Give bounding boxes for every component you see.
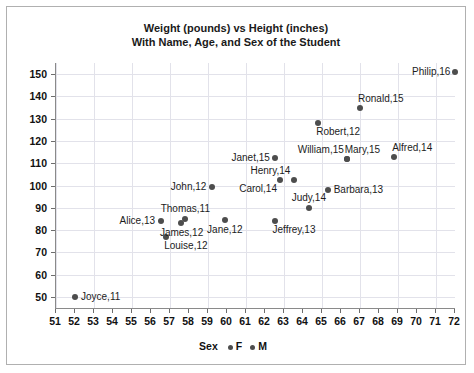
scatter-point-label: Barbara,13 — [334, 185, 383, 195]
chart-title: Weight (pounds) vs Height (inches) With … — [7, 21, 465, 49]
x-axis-tick-mark — [454, 309, 455, 313]
x-axis-tick-mark — [112, 309, 113, 313]
scatter-point-label: William,15 — [298, 145, 344, 155]
y-axis-tick-label: 120 — [17, 136, 47, 146]
scatter-point-label: Alfred,14 — [392, 143, 432, 153]
x-axis-tick-mark — [283, 309, 284, 313]
scatter-point[interactable] — [209, 184, 215, 190]
scatter-point-label: Carol,14 — [239, 184, 277, 194]
y-axis-tick-mark — [51, 186, 55, 187]
scatter-point-label: James,12 — [160, 228, 203, 238]
gridline-horizontal — [56, 275, 455, 276]
y-axis-tick-label: 100 — [17, 181, 47, 191]
chart-container: Weight (pounds) vs Height (inches) With … — [6, 6, 466, 365]
chart-legend: SexFM — [7, 340, 467, 352]
y-axis-tick-mark — [51, 163, 55, 164]
scatter-point[interactable] — [357, 105, 363, 111]
gridline-horizontal — [56, 230, 455, 231]
x-axis-tick-mark — [226, 309, 227, 313]
legend-item-label: M — [258, 340, 267, 352]
gridline-horizontal — [56, 208, 455, 209]
scatter-point[interactable] — [291, 177, 297, 183]
scatter-point-label: Mary,15 — [345, 145, 380, 155]
y-axis-tick-label: 80 — [17, 225, 47, 235]
scatter-point-label: Jane,12 — [207, 225, 243, 235]
legend-title: Sex — [199, 340, 218, 352]
y-axis-tick-mark — [51, 297, 55, 298]
gridline-horizontal — [56, 74, 455, 75]
gridline-horizontal — [56, 119, 455, 120]
y-axis-tick-label: 60 — [17, 270, 47, 280]
scatter-point-label: Alice,13 — [120, 216, 156, 226]
scatter-point[interactable] — [391, 154, 397, 160]
scatter-point[interactable] — [344, 156, 350, 162]
y-axis-tick-label: 70 — [17, 247, 47, 257]
x-axis-tick-label: 72 — [443, 316, 465, 326]
scatter-point-label: Louise,12 — [164, 241, 207, 251]
scatter-point-label: John,12 — [171, 182, 207, 192]
x-axis-tick-mark — [169, 309, 170, 313]
legend-item[interactable]: M — [250, 340, 267, 352]
y-axis-tick-mark — [51, 96, 55, 97]
y-axis-tick-label: 150 — [17, 69, 47, 79]
plot-area: Joyce,11Alice,13Louise,12James,12Thomas,… — [55, 63, 455, 309]
scatter-point-label: Thomas,11 — [161, 204, 210, 214]
chart-title-line-1: Weight (pounds) vs Height (inches) — [144, 22, 328, 34]
y-axis-tick-label: 110 — [17, 158, 47, 168]
x-axis-tick-mark — [93, 309, 94, 313]
scatter-point-label: Robert,12 — [316, 127, 360, 137]
y-axis-tick-mark — [51, 252, 55, 253]
y-axis-tick-label: 50 — [17, 292, 47, 302]
x-axis-tick-mark — [416, 309, 417, 313]
x-axis-tick-mark — [245, 309, 246, 313]
x-axis-tick-mark — [302, 309, 303, 313]
x-axis-tick-mark — [397, 309, 398, 313]
legend-marker-icon — [250, 345, 255, 350]
y-axis-tick-label: 90 — [17, 203, 47, 213]
scatter-point-label: Judy,14 — [292, 193, 326, 203]
y-axis-tick-label: 140 — [17, 91, 47, 101]
scatter-point[interactable] — [306, 205, 312, 211]
legend-item-label: F — [236, 340, 242, 352]
x-axis-tick-mark — [74, 309, 75, 313]
scatter-point-label: Henry,14 — [251, 166, 291, 176]
scatter-point-label: Ronald,15 — [358, 94, 404, 104]
scatter-point[interactable] — [452, 69, 458, 75]
x-axis-tick-mark — [55, 309, 56, 313]
x-axis-tick-mark — [321, 309, 322, 313]
scatter-point-label: Joyce,11 — [81, 292, 120, 302]
legend-item[interactable]: F — [228, 340, 242, 352]
x-axis-tick-mark — [131, 309, 132, 313]
x-axis-tick-mark — [207, 309, 208, 313]
scatter-point-label: Janet,15 — [232, 153, 270, 163]
y-axis-tick-mark — [51, 74, 55, 75]
x-axis-tick-mark — [264, 309, 265, 313]
scatter-point[interactable] — [72, 294, 78, 300]
y-axis-tick-mark — [51, 119, 55, 120]
scatter-point[interactable] — [158, 218, 164, 224]
x-axis-tick-mark — [435, 309, 436, 313]
x-axis-tick-mark — [359, 309, 360, 313]
scatter-point-label: Jeffrey,13 — [273, 225, 316, 235]
x-axis-tick-mark — [340, 309, 341, 313]
gridline-horizontal — [56, 252, 455, 253]
y-axis-tick-mark — [51, 208, 55, 209]
scatter-point[interactable] — [272, 155, 278, 161]
x-axis-tick-mark — [150, 309, 151, 313]
scatter-point-label: Philip,16 — [412, 67, 450, 77]
scatter-point[interactable] — [325, 187, 331, 193]
y-axis-tick-mark — [51, 141, 55, 142]
legend-marker-icon — [228, 345, 233, 350]
x-axis-tick-mark — [378, 309, 379, 313]
y-axis-tick-mark — [51, 275, 55, 276]
y-axis-tick-mark — [51, 230, 55, 231]
chart-title-line-2: With Name, Age, and Sex of the Student — [7, 35, 465, 49]
y-axis-tick-label: 130 — [17, 114, 47, 124]
x-axis-tick-mark — [188, 309, 189, 313]
